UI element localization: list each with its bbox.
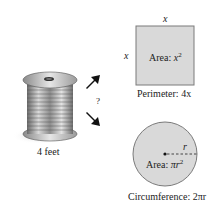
circle-shape (133, 122, 197, 186)
square-area-label: Area: x2 (149, 51, 182, 63)
circle-area-label: Area: πr2 (146, 158, 183, 170)
spool-length-label: 4 feet (37, 146, 60, 157)
square-top-side-label: x (163, 13, 167, 24)
circle-circumference-value: 2πr (193, 191, 206, 202)
circle-radius-label: r (183, 141, 187, 152)
circle-circumference-prefix: Circumference: (128, 191, 193, 202)
square-area-prefix: Area: (149, 52, 174, 63)
arrow-to-square-icon (86, 75, 100, 89)
wire-spool-illustration (12, 72, 77, 144)
diagram-canvas (0, 0, 212, 205)
square-perimeter-prefix: Perimeter: (137, 88, 181, 99)
square-perimeter-label: Perimeter: 4x (137, 88, 191, 99)
circle-circumference-label: Circumference: 2πr (128, 191, 206, 202)
arrow-to-circle-icon (86, 112, 100, 126)
square-perimeter-value: 4x (181, 88, 191, 99)
square-area-exponent: 2 (178, 51, 182, 59)
circle-area-prefix: Area: (146, 159, 171, 170)
question-mark: ? (96, 96, 100, 106)
circle-area-exponent: 2 (180, 158, 184, 166)
square-left-side-label: x (124, 50, 128, 61)
circle-area-variable: πr (171, 159, 180, 170)
